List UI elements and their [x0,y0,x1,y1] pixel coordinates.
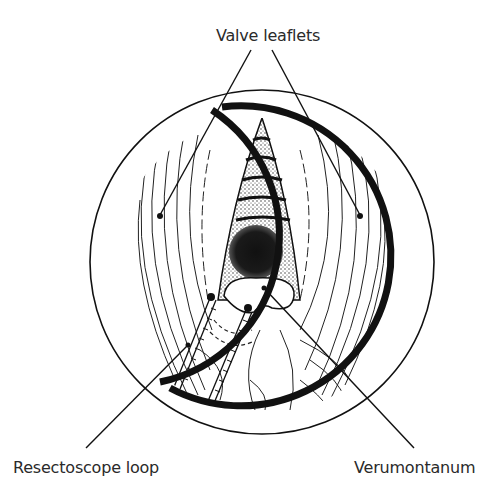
verumontanum-pointer-dot [262,286,267,291]
label-verumontanum: Verumontanum [354,458,475,477]
leaflet-pointer-dot-left [157,213,163,219]
urethral-valve-diagram [0,0,494,496]
left-leaflet-folds [138,128,212,400]
right-leaflet-folds [300,128,385,400]
leaflet-pointer-dot-right [357,213,363,219]
label-valve-leaflets: Valve leaflets [216,26,320,45]
label-resectoscope-loop: Resectoscope loop [13,458,159,477]
